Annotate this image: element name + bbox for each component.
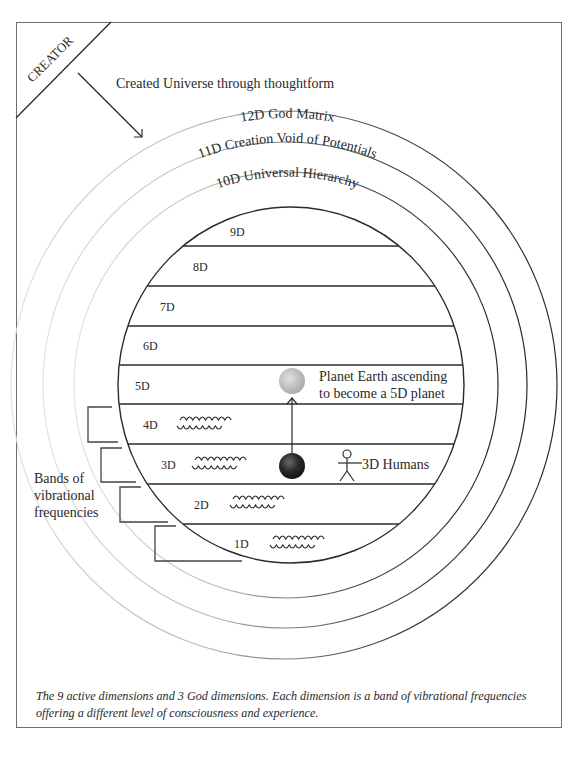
- stick-figure-icon: [338, 450, 362, 481]
- dimensions-diagram: CREATOR Created Universe through thought…: [0, 0, 581, 762]
- caption-line1: The 9 active dimensions and 3 God dimens…: [36, 688, 556, 705]
- ring-label-12d: 12D God Matrix: [239, 106, 336, 125]
- dimension-label-9d: 9D: [230, 225, 245, 239]
- dark-planet-icon: [279, 453, 305, 479]
- dimension-label-1d: 1D: [234, 537, 249, 551]
- caption-line2: offering a different level of consciousn…: [36, 705, 556, 722]
- dimension-label-2d: 2D: [194, 498, 209, 512]
- ring-label-10d: 10D Universal Hierarchy: [214, 165, 361, 192]
- wave-icon: [177, 417, 231, 429]
- figure-caption: The 9 active dimensions and 3 God dimens…: [36, 688, 556, 721]
- dimension-label-5d: 5D: [135, 379, 150, 393]
- bands-label-line2: vibrational: [34, 488, 95, 503]
- wave-icon: [192, 457, 246, 469]
- light-grey-planet-icon: [279, 368, 305, 394]
- wave-icon: [230, 496, 284, 508]
- up-arrow-icon: [287, 398, 297, 453]
- dimension-label-7d: 7D: [160, 300, 175, 314]
- dimension-label-8d: 8D: [193, 260, 208, 274]
- bands-label-line3: frequencies: [34, 505, 99, 520]
- creator-caption: Created Universe through thoughtform: [116, 76, 334, 91]
- ring-label-11d: 11D Creation Void of Potentials: [196, 130, 379, 161]
- dimension-label-3d: 3D: [161, 458, 176, 472]
- planet-annotation-line2: to become a 5D planet: [319, 386, 445, 401]
- creator-label: CREATOR: [24, 33, 77, 86]
- wave-icon: [270, 536, 324, 548]
- bands-label-line1: Bands of: [34, 471, 85, 486]
- dimension-label-6d: 6D: [143, 339, 158, 353]
- dimension-label-4d: 4D: [143, 418, 158, 432]
- planet-annotation-line1: Planet Earth ascending: [319, 369, 447, 384]
- humans-annotation: 3D Humans: [362, 457, 429, 472]
